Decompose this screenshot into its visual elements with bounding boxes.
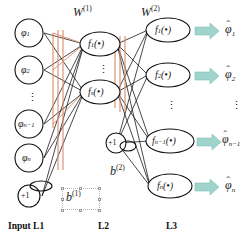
l3-vertical-dots: ⋮ bbox=[166, 100, 177, 111]
output-arrow-4 bbox=[195, 179, 219, 195]
weight-label-w2: W(2) bbox=[141, 5, 160, 18]
node-label-f1-l3: f1(•) bbox=[155, 25, 171, 35]
b1-handle-n[interactable] bbox=[79, 187, 82, 190]
b1-handle-nw[interactable] bbox=[61, 187, 64, 190]
l2-vertical-dots: ⋮ bbox=[98, 64, 109, 75]
weight-highlight-w1 bbox=[53, 30, 63, 170]
node-label-fs-l2: fs(•) bbox=[88, 87, 103, 97]
node-label-fn-l3: fn(•) bbox=[157, 181, 173, 191]
network-edges-svg bbox=[0, 0, 251, 244]
output-arrow-1 bbox=[195, 23, 219, 39]
l1-vertical-dots: ⋮ bbox=[27, 92, 38, 103]
b1-handle-se[interactable] bbox=[98, 209, 101, 212]
b1-handle-e[interactable] bbox=[98, 198, 101, 201]
neural-network-diagram: W(1) W(2) φ1 φ2 ⋮ φn−1 φn +1 b(1) f1(•) … bbox=[0, 0, 251, 244]
b1-handle-sw[interactable] bbox=[61, 209, 64, 212]
layer-caption-l1: Input L1 bbox=[8, 222, 44, 232]
l1-node-shapes bbox=[15, 19, 43, 207]
node-label-f2-l3: f2(•) bbox=[155, 70, 171, 80]
b1-handle-s[interactable] bbox=[79, 209, 82, 212]
layer-caption-l2: L2 bbox=[98, 222, 109, 232]
node-label-phi-2: φ2 bbox=[21, 65, 30, 75]
weight-label-w1: W(1) bbox=[73, 5, 92, 18]
output-arrows bbox=[195, 23, 221, 195]
node-label-fn-1-l3: fn−1(•) bbox=[152, 136, 176, 146]
output-label-phi-hat-1: ˆφ1 bbox=[225, 23, 235, 38]
output-vertical-dots: ⋮ bbox=[231, 100, 242, 111]
layer-caption-l3: L3 bbox=[166, 222, 177, 232]
node-label-phi-n-1: φn−1 bbox=[18, 119, 34, 129]
output-label-phi-hat-2: ˆφ2 bbox=[225, 68, 235, 83]
node-label-bias-l1: +1 bbox=[21, 192, 30, 200]
node-label-bias-l2: +1 bbox=[108, 139, 117, 147]
node-label-phi-n: φn bbox=[22, 153, 31, 163]
bias-label-b1[interactable]: b(1) bbox=[66, 190, 81, 203]
b1-handle-w[interactable] bbox=[61, 198, 64, 201]
output-label-phi-hat-n: ˆφn bbox=[225, 179, 235, 194]
b1-handle-ne[interactable] bbox=[98, 187, 101, 190]
node-label-phi-1: φ1 bbox=[21, 28, 30, 38]
bias-label-b2: b(2) bbox=[110, 164, 125, 177]
output-label-phi-hat-n-1: ˆφn−1 bbox=[222, 133, 240, 148]
output-arrow-2 bbox=[195, 68, 219, 84]
output-arrow-3 bbox=[197, 134, 221, 150]
node-label-f1-l2: f1(•) bbox=[88, 39, 104, 49]
